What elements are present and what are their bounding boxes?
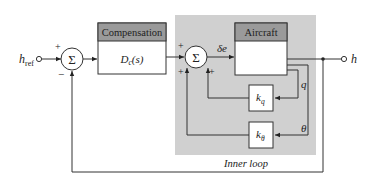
svg-text:Σ: Σ bbox=[192, 50, 200, 65]
svg-text:Compensation: Compensation bbox=[102, 27, 163, 38]
svg-text:Σ: Σ bbox=[68, 52, 76, 67]
q-signal-label: q bbox=[301, 78, 307, 90]
inner-sum-plus-bottom-right: + bbox=[209, 66, 215, 77]
theta-signal-label: θ bbox=[301, 122, 307, 134]
output-label: h bbox=[351, 52, 357, 66]
input-label: href bbox=[19, 52, 34, 68]
inner-loop-label: Inner loop bbox=[223, 158, 268, 169]
input-terminal bbox=[36, 56, 41, 61]
inner-sum-plus-bottom-left: + bbox=[178, 66, 184, 77]
outer-summing-junction: Σ bbox=[61, 48, 83, 70]
outer-sum-plus-sign: + bbox=[55, 41, 61, 52]
gain-kq-block: kq bbox=[249, 85, 273, 111]
aircraft-block: Aircraft bbox=[235, 23, 287, 75]
svg-text:Aircraft: Aircraft bbox=[244, 27, 277, 38]
outer-sum-minus-sign: − bbox=[58, 68, 64, 80]
compensation-block: Compensation Dc(s) bbox=[98, 23, 166, 74]
control-signal-label: δe bbox=[217, 42, 227, 54]
inner-summing-junction: Σ bbox=[185, 46, 207, 68]
inner-sum-plus-top: + bbox=[178, 40, 184, 51]
output-terminal bbox=[341, 56, 346, 61]
block-diagram: href Σ + − Compensation Dc(s) Σ + + + δe… bbox=[0, 0, 376, 181]
svg-text:Dc(s): Dc(s) bbox=[120, 53, 144, 67]
gain-ktheta-block: kθ bbox=[249, 122, 273, 148]
